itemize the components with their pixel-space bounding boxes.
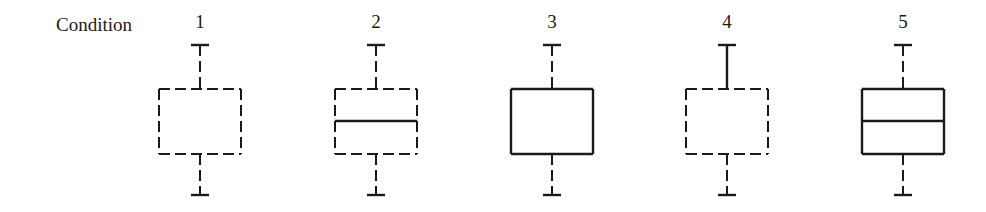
boxplot-diagram (0, 0, 986, 212)
boxplot-condition-5 (862, 45, 944, 195)
boxplot-condition-1 (159, 45, 241, 195)
boxplot-condition-3 (511, 45, 593, 195)
boxplot-condition-4 (686, 45, 768, 195)
boxplot-condition-2 (335, 45, 417, 195)
